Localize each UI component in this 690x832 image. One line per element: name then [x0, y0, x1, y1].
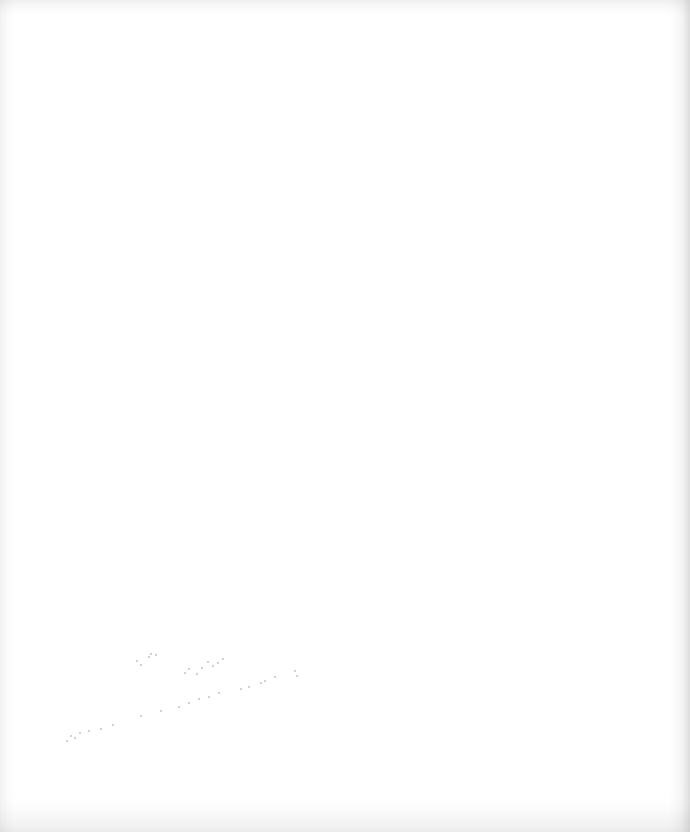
speckle: [88, 730, 90, 732]
speckle: [248, 686, 250, 688]
speckle: [148, 656, 150, 658]
speckle: [188, 702, 190, 704]
speckle: [74, 737, 76, 739]
speckle: [198, 698, 200, 700]
speckle: [296, 675, 298, 677]
speckle: [70, 735, 72, 737]
speckle: [196, 673, 198, 675]
speckle: [294, 670, 296, 672]
speckle: [274, 676, 276, 678]
speckle: [217, 662, 219, 664]
right-edge-shadow: [682, 0, 690, 832]
speckle: [112, 724, 114, 726]
speckle: [260, 682, 262, 684]
speckle: [201, 667, 203, 669]
speckle: [178, 706, 180, 708]
speckle: [140, 664, 142, 666]
speckle: [184, 672, 186, 674]
speckle: [218, 692, 220, 694]
speckle: [79, 732, 81, 734]
speckle: [100, 728, 102, 730]
speckle: [212, 665, 214, 667]
speckle: [222, 658, 224, 660]
speckle: [160, 710, 162, 712]
speckle: [136, 660, 138, 662]
speckle: [140, 715, 142, 717]
speckle: [207, 661, 209, 663]
speckle: [188, 668, 190, 670]
blank-page: [0, 0, 690, 832]
speckle: [150, 653, 152, 655]
speckle: [240, 688, 242, 690]
speckle: [155, 654, 157, 656]
speckle: [208, 696, 210, 698]
speckle: [66, 740, 68, 742]
bleed-through-speckles: [60, 640, 310, 750]
speckle: [264, 680, 266, 682]
